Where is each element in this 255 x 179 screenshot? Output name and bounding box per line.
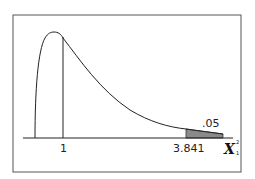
x-axis-subscript: 1 xyxy=(236,150,239,156)
chart: 1 3.841 .05 X 2 1 xyxy=(0,0,255,179)
x-axis-superscript: 2 xyxy=(236,139,239,145)
tick-label-critical: 3.841 xyxy=(173,142,205,155)
frame xyxy=(13,15,241,172)
x-axis-symbol: X xyxy=(223,141,236,157)
tail-area-label: .05 xyxy=(202,117,220,130)
tick-label-1: 1 xyxy=(60,142,67,155)
